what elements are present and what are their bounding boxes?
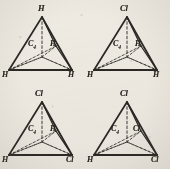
bond-base-rear-plane — [9, 142, 72, 155]
bond-base-rear-plane — [94, 142, 157, 155]
tetrahedron-panel-1: H C4 H H H — [0, 0, 85, 85]
apex-label: Cl — [120, 4, 128, 13]
edge-apex-to-base-left — [9, 17, 42, 70]
base-left-label: H — [2, 156, 8, 164]
base-left-label: H — [2, 71, 8, 79]
inner-right-label: Cl — [133, 125, 140, 133]
bond-base-rear-plane — [94, 57, 157, 70]
tetrahedra-figure-grid: H C4 H H H Cl C4 H H H — [0, 0, 170, 169]
bond-base-rear-plane — [9, 57, 72, 70]
base-right-label: Cl — [66, 156, 73, 164]
base-left-label: H — [87, 71, 93, 79]
apex-label: Cl — [120, 89, 128, 98]
tetrahedron-panel-4: Cl C4 Cl H Cl — [85, 85, 170, 169]
tetrahedron-panel-3: Cl C4 H H Cl — [0, 85, 85, 169]
edge-apex-to-base-left — [9, 102, 42, 155]
tetrahedron-panel-2: Cl C4 H H H — [85, 0, 170, 85]
base-right-label: Cl — [151, 156, 158, 164]
center-atom-label: C4 — [28, 125, 36, 135]
inner-right-label: H — [135, 40, 141, 48]
base-left-label: H — [87, 156, 93, 164]
edge-apex-to-base-left — [94, 17, 127, 70]
inner-right-label: H — [50, 40, 56, 48]
center-atom-label: C4 — [113, 40, 121, 50]
base-right-label: H — [153, 71, 159, 79]
base-right-label: H — [68, 71, 74, 79]
center-atom-label: C4 — [28, 40, 36, 50]
apex-label: Cl — [35, 89, 43, 98]
apex-label: H — [38, 4, 44, 13]
center-atom-label: C4 — [111, 125, 119, 135]
inner-right-label: H — [50, 125, 56, 133]
